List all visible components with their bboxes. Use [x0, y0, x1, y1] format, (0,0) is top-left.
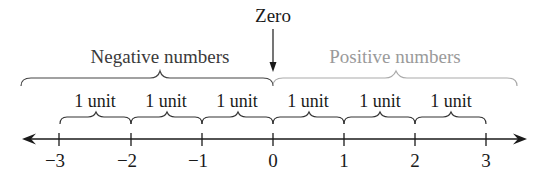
unit-brace — [131, 112, 202, 124]
unit-label: 1 unit — [74, 91, 116, 111]
unit-label: 1 unit — [145, 91, 187, 111]
unit-label: 1 unit — [359, 91, 401, 111]
tick-label: 3 — [481, 150, 491, 171]
unit-label: 1 unit — [216, 91, 258, 111]
negative-brace — [21, 71, 273, 86]
unit-label: 1 unit — [287, 91, 329, 111]
tick-label: −1 — [188, 150, 208, 171]
tick-label: 2 — [410, 150, 420, 171]
zero-label: Zero — [255, 5, 291, 26]
positive-numbers-label: Positive numbers — [329, 46, 460, 67]
unit-brace — [202, 112, 273, 124]
tick-label: 0 — [268, 150, 278, 171]
unit-brace — [344, 112, 415, 124]
unit-brace — [273, 112, 344, 124]
tick-label: 1 — [339, 150, 349, 171]
positive-brace — [273, 71, 517, 86]
unit-brace — [415, 112, 486, 124]
negative-numbers-label: Negative numbers — [91, 46, 230, 67]
unit-brace — [60, 112, 131, 124]
zero-arrow-icon — [270, 62, 277, 72]
tick-label: −2 — [117, 150, 137, 171]
tick-label: −3 — [45, 150, 65, 171]
unit-label: 1 unit — [430, 91, 472, 111]
number-line-diagram: Zero Negative numbers Positive numbers 1… — [0, 0, 548, 182]
